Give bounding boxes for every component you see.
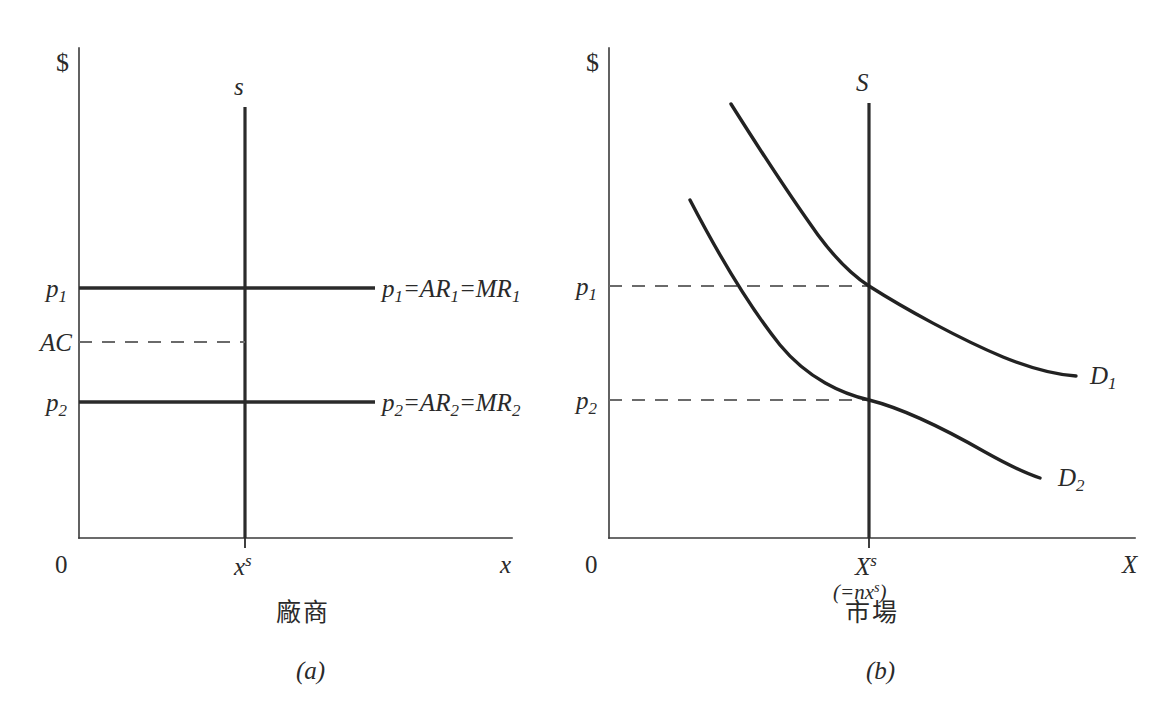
panel-a-quantity-sup: s (245, 551, 252, 570)
figure-canvas (0, 0, 1173, 726)
panel-b-x-axis-label: X (1122, 552, 1137, 577)
panel-a-quantity-tick-label: xs (234, 552, 252, 579)
panel-b-price1-base: p (576, 273, 589, 300)
panel-a-ar1-sub: 1 (450, 287, 459, 306)
panel-a-price1-axis-sub: 1 (59, 287, 68, 306)
panel-a-price2-axis-sub: 2 (59, 401, 68, 420)
panel-a-price2-axis-base: p (46, 389, 59, 416)
panel-b-price2-axis-label: p2 (576, 388, 597, 417)
panel-a-ar1-text: =AR (403, 275, 450, 302)
panel-b-price1-axis-label: p1 (576, 274, 597, 303)
panel-b-geometry (609, 48, 1135, 548)
panel-b-demand2-label: D2 (1058, 465, 1085, 494)
panel-b-y-axis-label: $ (586, 50, 599, 76)
panel-b-caption-cjk: 市場 (845, 600, 899, 625)
panel-a-supply-label: s (234, 74, 244, 99)
panel-a-p2-base: p (382, 389, 395, 416)
panel-a-price1-line-label: p1=AR1=MR1 (382, 276, 520, 305)
panel-b-supply-label: S (856, 70, 869, 95)
panel-a-price1-axis-base: p (46, 275, 59, 302)
panel-a-p2-sub: 2 (395, 401, 404, 420)
panel-b-origin-label: 0 (585, 552, 598, 577)
panel-a-price2-axis-label: p2 (46, 390, 67, 419)
panel-b-price2-sub: 2 (589, 399, 598, 418)
panel-b-price1-sub: 1 (589, 285, 598, 304)
panel-b-d2-sub: 2 (1076, 476, 1085, 495)
panel-a-ar2-text: =AR (403, 389, 450, 416)
panel-a-ac-label: AC (40, 330, 72, 355)
panel-a-p1-base: p (382, 275, 395, 302)
panel-a-mr1-text: =MR (459, 275, 512, 302)
panel-b-demand-curve-d2 (690, 200, 1040, 478)
panel-a-quantity-base: x (234, 553, 245, 580)
panel-b-quantity-sup: s (870, 551, 877, 570)
panel-b-quantity-tick-label: Xs (855, 552, 877, 579)
panel-b-d1-sub: 1 (1108, 374, 1117, 393)
panel-a-mr1-sub: 1 (512, 287, 521, 306)
panel-b-demand-curve-d1 (731, 104, 1076, 376)
panel-b-d1-base: D (1090, 362, 1108, 389)
panel-a-x-axis-label: x (500, 552, 511, 577)
panel-a-ar2-sub: 2 (450, 401, 459, 420)
panel-a-caption-cjk: 廠商 (276, 600, 330, 625)
panel-a-price1-axis-label: p1 (46, 276, 67, 305)
panel-a-mr2-sub: 2 (512, 401, 521, 420)
figure-root: $ s p1 AC p2 p1=AR1=MR1 p2=AR2=MR2 0 xs … (0, 0, 1173, 726)
panel-a-p1-sub: 1 (395, 287, 404, 306)
panel-b-demand1-label: D1 (1090, 363, 1117, 392)
panel-b-price2-base: p (576, 387, 589, 414)
panel-a-id-caption: (a) (296, 658, 325, 683)
panel-a-mr2-text: =MR (459, 389, 512, 416)
panel-a-origin-label: 0 (55, 552, 68, 577)
panel-a-price2-line-label: p2=AR2=MR2 (382, 390, 520, 419)
panel-a-y-axis-label: $ (56, 50, 69, 76)
panel-b-d2-base: D (1058, 464, 1076, 491)
panel-b-id-caption: (b) (866, 658, 895, 683)
panel-b-quantity-base: X (855, 553, 870, 580)
